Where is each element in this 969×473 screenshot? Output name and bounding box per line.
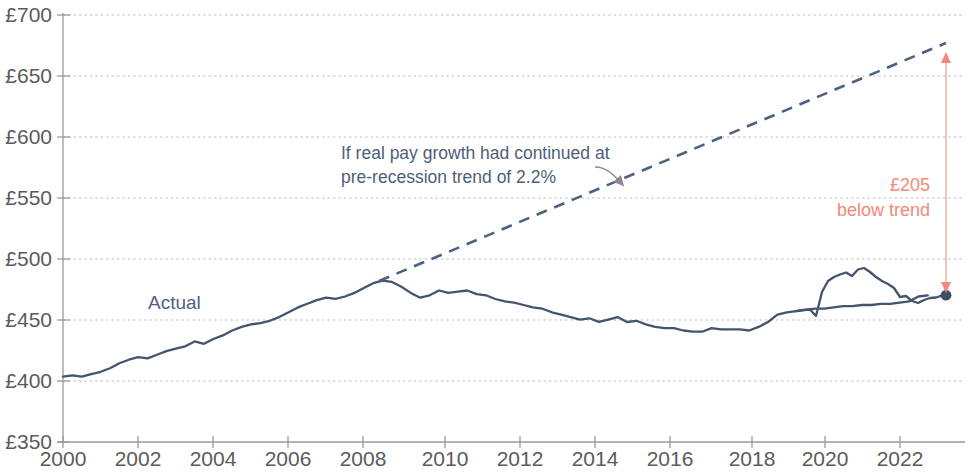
y-tick-label-600: £600 <box>0 125 52 149</box>
y-tick-label-550: £550 <box>0 186 52 210</box>
series-label-actual: Actual <box>148 292 201 314</box>
y-tick-label-650: £650 <box>0 64 52 88</box>
y-tick-label-450: £450 <box>0 308 52 332</box>
trend-annotation-arrow-icon <box>595 167 622 184</box>
gap-annotation-label: below trend <box>828 198 930 223</box>
y-tick-label-400: £400 <box>0 369 52 393</box>
trend-annotation-line-1: If real pay growth had continued at <box>341 141 610 165</box>
y-tick-label-500: £500 <box>0 247 52 271</box>
x-tick-label-2022: 2022 <box>850 447 950 471</box>
y-tick-label-700: £700 <box>0 3 52 27</box>
chart-container: £700 £650 £600 £550 £500 £450 £400 £350 … <box>0 0 969 473</box>
gap-arrow-head-up-icon <box>941 52 951 63</box>
real-pay-line-chart <box>0 0 969 473</box>
trend-annotation-line-2: pre-recession trend of 2.2% <box>341 165 556 189</box>
gap-annotation-value: £205 <box>838 173 930 198</box>
series-actual-covid-detail <box>796 268 946 316</box>
